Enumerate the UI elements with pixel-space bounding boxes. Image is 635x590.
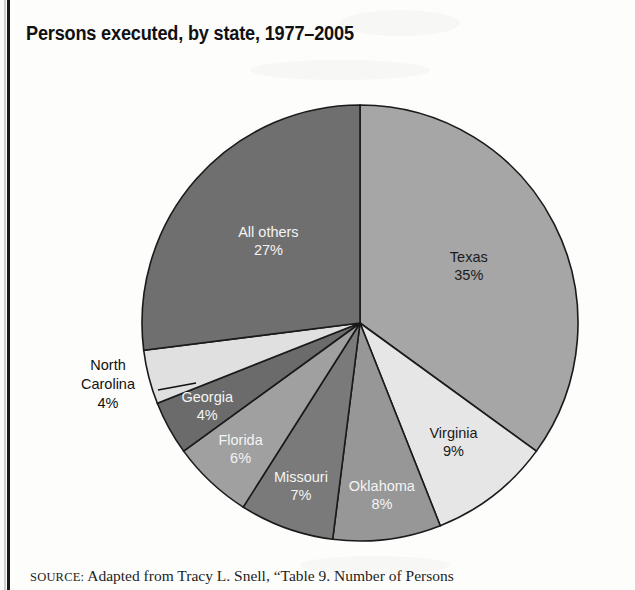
source-text: Adapted from Tracy L. Snell, “Table 9. N… [87, 567, 454, 584]
source-prefix: SOURCE: [30, 570, 84, 584]
slice-value-virginia: 9% [443, 443, 464, 459]
pie-slices [142, 105, 578, 541]
slice-label-oklahoma: Oklahoma [349, 478, 416, 494]
slice-label-texas: Texas [450, 249, 488, 265]
pie-chart-svg: Texas35%Virginia9%Oklahoma8%Missouri7%Fl… [0, 0, 635, 590]
slice-value-florida: 6% [230, 450, 251, 466]
slice-value-all-others: 27% [254, 242, 283, 258]
slice-value-texas: 35% [454, 267, 483, 283]
slice-value-oklahoma: 8% [371, 496, 392, 512]
slice-label-florida: Florida [218, 432, 263, 448]
slice-value-missouri: 7% [290, 487, 311, 503]
slice-label-georgia: Georgia [181, 389, 234, 405]
figure-page: Persons executed, by state, 1977–2005 Te… [0, 0, 635, 590]
callout-line: 4% [98, 395, 119, 411]
callout-label-north-carolina: NorthCarolina4% [81, 357, 136, 411]
slice-label-missouri: Missouri [274, 469, 328, 485]
pie-chart: Texas35%Virginia9%Oklahoma8%Missouri7%Fl… [0, 0, 635, 590]
source-note: SOURCE: Adapted from Tracy L. Snell, “Ta… [30, 566, 620, 587]
callout-line: Carolina [81, 376, 136, 392]
slice-label-virginia: Virginia [429, 425, 478, 441]
slice-label-all-others: All others [238, 224, 298, 240]
callout-line: North [90, 357, 125, 373]
slice-value-georgia: 4% [197, 407, 218, 423]
